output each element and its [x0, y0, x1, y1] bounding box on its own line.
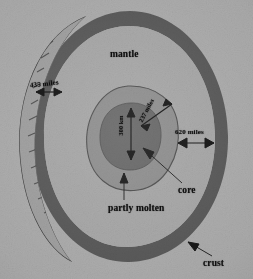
label-mantle: mantle	[110, 49, 139, 59]
earth-cross-section-artwork	[0, 0, 253, 279]
label-crust: crust	[203, 258, 224, 268]
label-measurement-mantle: 620 miles	[175, 128, 204, 136]
label-measurement-core: 300 km	[117, 115, 124, 135]
label-partly-molten: partly molten	[108, 203, 164, 213]
diagram-canvas: mantle core partly molten crust 435 mile…	[0, 0, 253, 279]
leader-crust	[188, 242, 212, 256]
label-core: core	[178, 185, 196, 195]
